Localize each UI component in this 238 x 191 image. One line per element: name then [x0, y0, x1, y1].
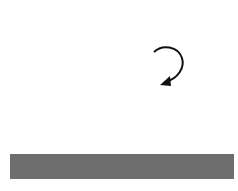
curved-arrow-icon: [154, 47, 183, 86]
flip-label-bar: [10, 154, 234, 179]
flip-diagram: [0, 0, 238, 191]
